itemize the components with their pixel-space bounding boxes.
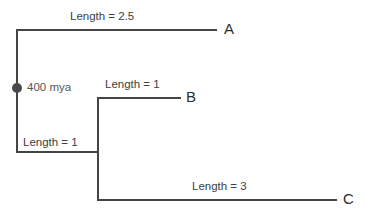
branch-a-length-label: Length = 2.5 [70,11,134,23]
taxon-label-c: C [343,191,354,206]
branch-b-length-label: Length = 1 [105,79,160,91]
taxon-label-b: B [186,89,196,104]
phylogenetic-tree-figure: Length = 2.5 Length = 1 Length = 1 Lengt… [0,0,365,218]
ancestral-node-marker [12,83,22,93]
taxon-label-a: A [224,21,234,36]
branch-internal-length-label: Length = 1 [23,137,78,149]
branch-c-length-label: Length = 3 [192,181,247,193]
tree-drawing [0,0,365,218]
node-age-label: 400 mya [27,82,71,94]
